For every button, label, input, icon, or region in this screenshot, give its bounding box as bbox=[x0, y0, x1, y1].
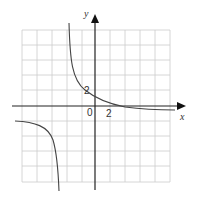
y-tick-label: 2 bbox=[84, 85, 90, 96]
x-axis-label: x bbox=[180, 111, 184, 122]
right-branch bbox=[69, 23, 175, 110]
y-arrow-icon bbox=[91, 14, 99, 23]
origin-label: 0 bbox=[87, 107, 93, 118]
x-arrow-icon bbox=[177, 102, 186, 110]
hyperbola-graph bbox=[0, 0, 197, 199]
x-tick-label: 2 bbox=[106, 108, 112, 119]
y-axis-label: y bbox=[84, 8, 88, 19]
